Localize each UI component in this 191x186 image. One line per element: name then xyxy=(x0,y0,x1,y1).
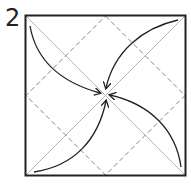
arrow-top-left-icon xyxy=(30,26,100,93)
fold-diagram xyxy=(0,0,191,186)
diagonal-creases xyxy=(26,16,185,175)
arrow-top-right-icon xyxy=(106,20,178,88)
arrow-bottom-left-icon xyxy=(34,101,106,172)
arrow-bottom-right-icon xyxy=(110,95,181,167)
